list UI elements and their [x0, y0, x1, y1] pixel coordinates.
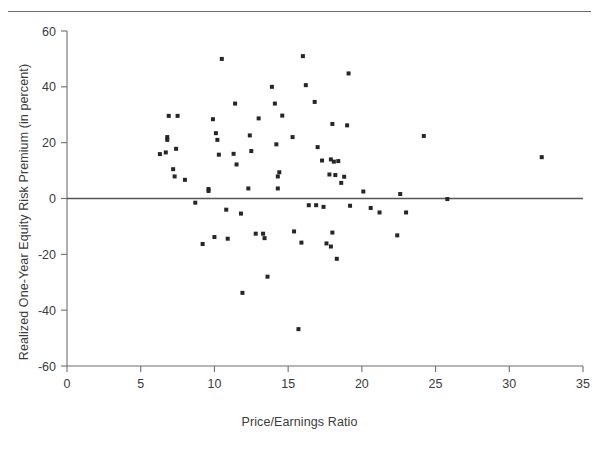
x-tick-label: 15 [281, 377, 295, 391]
x-axis-title: Price/Earnings Ratio [0, 415, 599, 429]
data-point-marker [307, 203, 311, 207]
data-point-marker [404, 210, 408, 214]
data-point-marker [211, 117, 215, 121]
data-point-marker [257, 116, 261, 120]
data-point-marker [348, 204, 352, 208]
x-tick-label: 35 [576, 377, 590, 391]
data-point-marker [322, 205, 326, 209]
data-point-marker [215, 138, 219, 142]
data-point-marker [226, 237, 230, 241]
data-point-marker [378, 210, 382, 214]
data-point-marker [220, 57, 224, 61]
data-point-marker [316, 145, 320, 149]
data-point-marker [336, 159, 340, 163]
data-point-marker [246, 186, 250, 190]
x-tick-label: 25 [429, 377, 443, 391]
data-point-marker [333, 173, 337, 177]
data-point-marker [233, 102, 237, 106]
data-point-marker [280, 114, 284, 118]
data-point-marker [183, 178, 187, 182]
y-tick-label: -20 [38, 248, 56, 262]
data-point-marker [422, 134, 426, 138]
data-point-marker [232, 152, 236, 156]
data-point-marker [263, 236, 267, 240]
data-point-marker [276, 186, 280, 190]
data-point-marker [277, 170, 281, 174]
data-point-marker [173, 174, 177, 178]
data-point-marker [330, 231, 334, 235]
data-point-marker [171, 167, 175, 171]
data-point-marker [296, 327, 300, 331]
y-tick-label: 20 [42, 136, 56, 150]
data-point-marker [301, 54, 305, 58]
data-point-marker [327, 172, 331, 176]
data-point-marker [249, 149, 253, 153]
data-point-marker [274, 142, 278, 146]
data-point-marker [254, 232, 258, 236]
data-point-marker [299, 241, 303, 245]
data-point-marker [347, 71, 351, 75]
data-point-marker [335, 257, 339, 261]
data-point-marker [330, 122, 334, 126]
data-point-marker [235, 162, 239, 166]
x-tick-label: 0 [64, 377, 71, 391]
data-point-marker [339, 181, 343, 185]
data-point-marker [304, 83, 308, 87]
data-point-marker [164, 150, 168, 154]
data-point-marker [324, 241, 328, 245]
x-tick-label: 20 [355, 377, 369, 391]
data-point-marker [266, 275, 270, 279]
y-tick-label: -60 [38, 360, 56, 374]
data-point-marker [167, 114, 171, 118]
y-tick-label: 60 [42, 25, 56, 39]
scatter-plot: 05101520253035-60-40-200204060 [0, 0, 599, 449]
data-point-marker [224, 208, 228, 212]
y-tick-label: 40 [42, 80, 56, 94]
data-point-marker [248, 133, 252, 137]
data-point-marker [165, 138, 169, 142]
data-point-marker [270, 85, 274, 89]
data-point-marker [201, 242, 205, 246]
data-point-marker [395, 233, 399, 237]
data-point-marker [445, 197, 449, 201]
data-point-marker [217, 153, 221, 157]
data-point-marker [313, 100, 317, 104]
data-point-marker [240, 291, 244, 295]
data-point-marker [158, 152, 162, 156]
data-point-marker [398, 192, 402, 196]
data-point-marker [332, 160, 336, 164]
data-point-marker [174, 147, 178, 151]
data-point-marker [329, 245, 333, 249]
data-point-marker [193, 201, 197, 205]
data-point-marker [214, 131, 218, 135]
y-axis-title: Realized One-Year Equity Risk Premium (i… [17, 47, 31, 377]
data-point-marker [212, 235, 216, 239]
y-tick-label: 0 [49, 192, 56, 206]
data-point-marker [361, 190, 365, 194]
data-point-marker [261, 232, 265, 236]
data-point-marker [239, 212, 243, 216]
x-tick-label: 10 [207, 377, 221, 391]
data-point-marker [276, 174, 280, 178]
x-tick-label: 5 [137, 377, 144, 391]
data-point-marker [292, 229, 296, 233]
data-point-marker [540, 155, 544, 159]
y-tick-label: -40 [38, 304, 56, 318]
data-point-marker [273, 102, 277, 106]
data-point-marker [314, 203, 318, 207]
data-point-marker [320, 159, 324, 163]
data-point-marker [207, 189, 211, 193]
data-point-marker [291, 135, 295, 139]
x-tick-label: 30 [502, 377, 516, 391]
data-point-marker [345, 123, 349, 127]
data-point-marker [369, 206, 373, 210]
data-point-marker [342, 175, 346, 179]
data-point-marker [176, 114, 180, 118]
figure-container: 05101520253035-60-40-200204060 Realized … [0, 0, 599, 449]
